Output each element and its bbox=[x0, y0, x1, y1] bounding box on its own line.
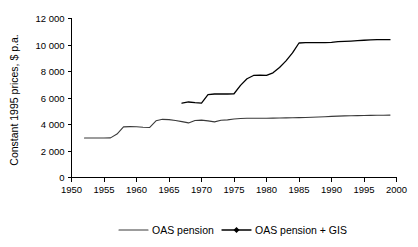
x-tick-label: 1960 bbox=[126, 184, 147, 195]
chart-svg: Constant 1995 prices, $ p.a. 02 0004 000… bbox=[0, 0, 418, 247]
x-tick-label: 1965 bbox=[158, 184, 179, 195]
series-markers-oas-pension-gis bbox=[182, 1, 390, 101]
x-tick-label: 1950 bbox=[61, 184, 82, 195]
y-tick-label: 4 000 bbox=[41, 119, 65, 130]
x-tick-label: 1995 bbox=[353, 184, 374, 195]
series-line-oas-pension bbox=[85, 115, 391, 138]
y-tick-label: 2 000 bbox=[41, 146, 65, 157]
y-axis-title-label: Constant 1995 prices, $ p.a. bbox=[8, 34, 20, 165]
x-tick-label: 1955 bbox=[93, 184, 114, 195]
x-tick-label: 1990 bbox=[321, 184, 342, 195]
x-tick-label: 2000 bbox=[386, 184, 407, 195]
x-tick-label: 1980 bbox=[256, 184, 277, 195]
x-tick-label: 1985 bbox=[288, 184, 309, 195]
y-tick-label: 8 000 bbox=[41, 66, 65, 77]
x-tick-label: 1970 bbox=[191, 184, 212, 195]
x-tick-label: 1975 bbox=[223, 184, 244, 195]
tick-marks bbox=[68, 19, 397, 182]
y-tick-label: 0 bbox=[59, 172, 64, 183]
legend-swatch-marker-diamond bbox=[234, 227, 240, 233]
y-tick-label: 6 000 bbox=[41, 93, 65, 104]
y-tick-labels: 02 0004 0006 0008 00010 00012 000 bbox=[35, 13, 64, 183]
y-axis-title: Constant 1995 prices, $ p.a. bbox=[8, 34, 20, 165]
chart-legend: OAS pension OAS pension + GIS bbox=[119, 224, 347, 236]
series-line-oas-pension-gis bbox=[182, 40, 390, 103]
chart-figure: Constant 1995 prices, $ p.a. 02 0004 000… bbox=[0, 0, 418, 247]
legend-label-oas-pension-gis: OAS pension + GIS bbox=[255, 224, 347, 236]
legend-item-oas-pension: OAS pension bbox=[119, 224, 214, 236]
y-tick-label: 12 000 bbox=[35, 13, 64, 24]
x-tick-labels: 1950195519601965197019751980198519901995… bbox=[61, 184, 407, 195]
y-tick-label: 10 000 bbox=[35, 40, 64, 51]
legend-item-oas-pension-gis: OAS pension + GIS bbox=[222, 224, 347, 236]
legend-label-oas-pension: OAS pension bbox=[152, 224, 214, 236]
